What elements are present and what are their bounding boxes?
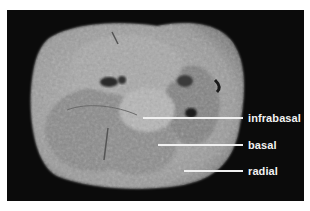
basal-leader-line (158, 144, 243, 146)
label-basal: basal (248, 139, 277, 151)
label-radial: radial (248, 165, 278, 177)
radial-leader-line (184, 170, 243, 172)
specimen-photo: infrabasal basal radial (7, 10, 304, 201)
label-infrabasal: infrabasal (248, 112, 301, 124)
infrabasal-leader-line (143, 117, 243, 119)
